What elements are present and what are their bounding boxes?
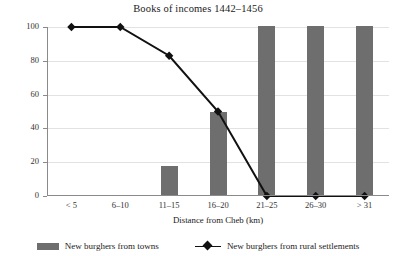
- y-tick-label: 100: [6, 21, 39, 31]
- legend-entry-rural: New burghers from rural settlements: [195, 241, 359, 251]
- legend-label-towns: New burghers from towns: [65, 241, 159, 251]
- legend-bar-swatch-icon: [37, 243, 59, 250]
- legend-label-rural: New burghers from rural settlements: [227, 241, 359, 251]
- x-tick-label: 21–25: [256, 200, 277, 210]
- data-point-marker: [67, 23, 75, 31]
- y-tick-label: 80: [6, 55, 39, 65]
- x-tick-label: 16–20: [207, 200, 228, 210]
- chart-legend: New burghers from towns New burghers fro…: [0, 241, 396, 251]
- y-tick-label: 20: [6, 156, 39, 166]
- x-tick-label: > 31: [357, 200, 372, 210]
- y-axis-line: [47, 27, 48, 196]
- x-tick-label: 6–10: [112, 200, 129, 210]
- x-axis-zone: < 56–1011–1516–2021–2526–30> 31 Distance…: [47, 196, 389, 224]
- y-tick-label: 0: [6, 190, 39, 200]
- x-tick-label: 11–15: [159, 200, 180, 210]
- x-tick-label: < 5: [66, 200, 77, 210]
- x-tick-label: 26–30: [305, 200, 326, 210]
- data-point-marker: [116, 23, 124, 31]
- plot-area: 020406080100 < 56–1011–1516–2021–2526–30…: [47, 27, 389, 196]
- y-tick-label: 40: [6, 122, 39, 132]
- chart-title: Books of incomes 1442–1456: [0, 3, 396, 14]
- legend-entry-towns: New burghers from towns: [37, 241, 159, 251]
- x-axis-label: Distance from Cheb (km): [47, 215, 389, 225]
- y-tick-label: 60: [6, 89, 39, 99]
- chart-figure: Books of incomes 1442–1456 New burghers …: [0, 0, 396, 256]
- line-series: [47, 27, 389, 196]
- legend-line-marker-icon: [195, 242, 221, 251]
